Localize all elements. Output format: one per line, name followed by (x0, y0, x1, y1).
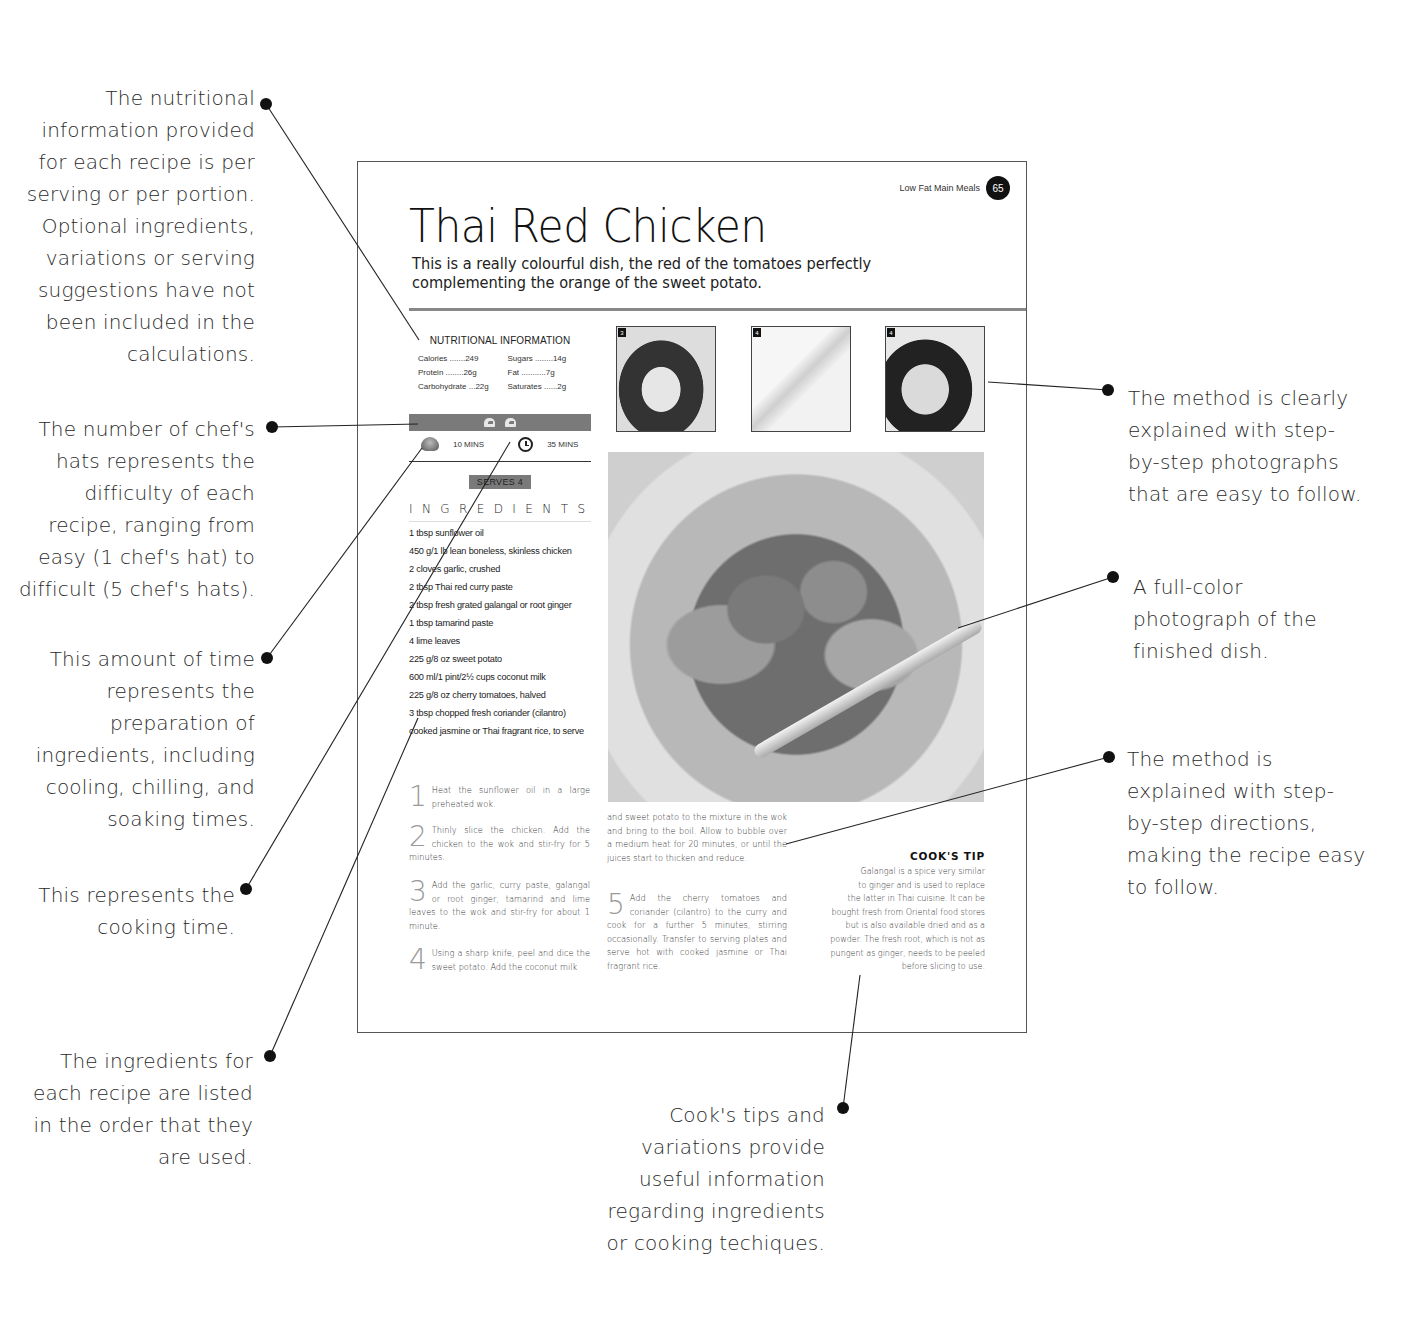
anno-line: Cook's tips and (607, 1099, 826, 1131)
chef-hat-icon (505, 418, 516, 427)
tip-line: but is also available dried and as a (828, 919, 985, 933)
nutrition-item: Sugars ........14g (508, 352, 592, 366)
anno-dot-icon (240, 883, 252, 895)
anno-line: The number of chef's (19, 413, 255, 445)
anno-dot-icon (1103, 751, 1115, 763)
step-text: Heat the sunflower oil in a large prehea… (432, 785, 590, 809)
finished-dish-photo (608, 452, 984, 802)
section-name: Low Fat Main Meals (899, 183, 980, 193)
prep-time: 10 MINS (453, 440, 484, 449)
anno-line: This represents the (38, 879, 235, 911)
anno-line: Optional ingredients, (27, 210, 255, 242)
nutrition-item: Fat ...........7g (508, 366, 592, 380)
step-photo-3: 3 (616, 326, 716, 432)
anno-line: soaking times. (36, 803, 255, 835)
nutrition-item: Calories .......249 (418, 352, 502, 366)
tip-line: powder. The fresh root, which is not as (828, 933, 985, 947)
running-head: Low Fat Main Meals 65 (899, 176, 1010, 200)
anno-line: difficulty of each (19, 477, 255, 509)
anno-line: serving or per portion. (27, 178, 255, 210)
ingredient-item: 450 g/1 lb lean boneless, skinless chick… (409, 546, 591, 557)
step-text: and sweet potato to the mixture in the w… (607, 812, 787, 863)
step-photo-number: 4 (753, 328, 761, 337)
method-step-5: 5 Add the cherry tomatoes and coriander … (607, 892, 787, 974)
step-number: 4 (409, 948, 427, 972)
anno-dot-icon (260, 98, 272, 110)
anno-line: easy (1 chef's hat) to (19, 541, 255, 573)
step-photo-number: 4 (887, 328, 895, 337)
recipe-page: Low Fat Main Meals 65 Thai Red Chicken T… (357, 161, 1027, 1033)
anno-line: been included in the (27, 306, 255, 338)
timing-row: 10 MINS 35 MINS (409, 431, 591, 457)
prep-time-icon (421, 437, 439, 451)
anno-line: The method is (1127, 743, 1365, 775)
annotation-cooks-tips: Cook's tips and variations provide usefu… (607, 1099, 826, 1259)
tip-line: to ginger and is used to replace (828, 879, 985, 893)
nutrition-heading: NUTRITIONAL INFORMATION (409, 335, 591, 346)
anno-line: for each recipe is per (27, 146, 255, 178)
anno-line: The ingredients for (33, 1045, 253, 1077)
tip-line: the latter in Thai cuisine. It can be (828, 892, 985, 906)
ingredient-item: 2 tbsp fresh grated galangal or root gin… (409, 600, 591, 611)
anno-line: in the order that they (33, 1109, 253, 1141)
ingredient-item: 225 g/8 oz sweet potato (409, 654, 591, 665)
annotation-finished-photo: A full-color photograph of the finished … (1133, 571, 1317, 667)
anno-line: suggestions have not (27, 274, 255, 306)
tip-line: bought fresh from Oriental food stores (828, 906, 985, 920)
anno-line: The nutritional (27, 82, 255, 114)
anno-line: variations provide (607, 1131, 826, 1163)
intro-line: complementing the orange of the sweet po… (412, 274, 762, 292)
ingredient-item: cooked jasmine or Thai fragrant rice, to… (409, 726, 591, 737)
anno-line: each recipe are listed (33, 1077, 253, 1109)
annotation-cook-time: This represents the cooking time. (38, 879, 235, 943)
anno-line: finished dish. (1133, 635, 1317, 667)
nutrition-item: Carbohydrate ...22g (418, 380, 502, 394)
tip-line: before slicing to use. (828, 960, 985, 974)
anno-dot-icon (261, 652, 273, 664)
anno-line: hats represents the (19, 445, 255, 477)
cooks-tip-body: Galangal is a spice very similar to ging… (828, 865, 985, 974)
ingredient-item: 3 tbsp chopped fresh coriander (cilantro… (409, 708, 591, 719)
step-text: Add the garlic, curry paste, galangal or… (409, 880, 590, 931)
anno-line: ingredients, including (36, 739, 255, 771)
timing-divider (409, 461, 591, 462)
info-column: NUTRITIONAL INFORMATION Calories .......… (409, 332, 591, 744)
clock-icon (518, 437, 533, 452)
nutrition-item: Protein ........26g (418, 366, 502, 380)
ingredients-heading: INGREDIENTS (409, 502, 591, 516)
anno-line: to follow. (1127, 871, 1365, 903)
page-number-badge: 65 (986, 176, 1010, 200)
anno-line: variations or serving (27, 242, 255, 274)
method-step-2: 2 Thinly slice the chicken. Add the chic… (409, 824, 590, 865)
ingredient-item: 1 tbsp tamarind paste (409, 618, 591, 629)
ingredient-item: 1 tbsp sunflower oil (409, 528, 591, 539)
anno-line: A full-color (1133, 571, 1317, 603)
tip-line: pungent as ginger, needs to be peeled (828, 947, 985, 961)
step-photo-4b: 4 (885, 326, 985, 432)
step-photo-number: 3 (618, 328, 626, 337)
anno-line: calculations. (27, 338, 255, 370)
anno-line: cooling, chilling, and (36, 771, 255, 803)
anno-line: explained with step- (1128, 414, 1362, 446)
anno-line: recipe, ranging from (19, 509, 255, 541)
ingredients-list: 1 tbsp sunflower oil 450 g/1 lb lean bon… (409, 528, 591, 737)
method-step-3: 3 Add the garlic, curry paste, galangal … (409, 879, 590, 933)
anno-line: by-step photographs (1128, 446, 1362, 478)
annotation-ingredients-order: The ingredients for each recipe are list… (33, 1045, 253, 1173)
annotation-nutrition: The nutritional information provided for… (27, 82, 255, 370)
method-step-1: 1 Heat the sunflower oil in a large preh… (409, 784, 590, 811)
anno-line: photograph of the (1133, 603, 1317, 635)
anno-dot-icon (266, 421, 278, 433)
nutrition-table: Calories .......249 Sugars ........14g P… (409, 352, 591, 394)
serves-wrap: SERVES 4 (409, 471, 591, 489)
ingredient-item: 2 cloves garlic, crushed (409, 564, 591, 575)
anno-line: cooking time. (38, 911, 235, 943)
anno-line: This amount of time (36, 643, 255, 675)
annotation-chefs-hats: The number of chef's hats represents the… (19, 413, 255, 605)
cook-time: 35 MINS (547, 440, 578, 449)
anno-dot-icon (264, 1050, 276, 1062)
anno-line: preparation of (36, 707, 255, 739)
recipe-title: Thai Red Chicken (409, 198, 767, 254)
step-number: 2 (409, 825, 427, 849)
anno-line: difficult (5 chef's hats). (19, 573, 255, 605)
